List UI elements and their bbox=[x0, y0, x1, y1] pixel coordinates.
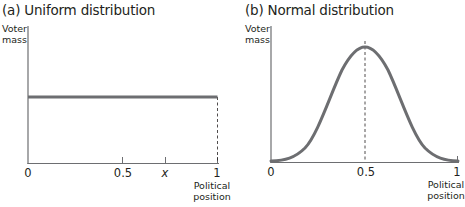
panel-b-xlabel-line2: position bbox=[421, 190, 465, 201]
panel-b-tick-label-1: 1 bbox=[453, 165, 460, 179]
panel-b-ylabel-line2: mass bbox=[240, 34, 270, 45]
panel-b-plot bbox=[270, 26, 459, 163]
panel-a-xlabel-line2: position bbox=[187, 191, 237, 202]
panel-a-tick-label-1: 1 bbox=[213, 166, 220, 180]
panel-b-x-axis-label: Political position bbox=[421, 179, 465, 201]
panel-b-ylabel-line1: Voter bbox=[240, 23, 270, 34]
panel-a-x-axis-label: Political position bbox=[187, 180, 237, 202]
panel-b-tick-label-half: 0.5 bbox=[357, 165, 375, 179]
panel-a-tick-label-0: 0 bbox=[24, 166, 31, 180]
panel-b-tick-label-0: 0 bbox=[267, 165, 274, 179]
panel-a-xlabel-line1: Political bbox=[187, 180, 237, 191]
panel-b-xlabel-line1: Political bbox=[421, 179, 465, 190]
panel-a-tick-label-x: x bbox=[162, 166, 169, 180]
panel-a-tick-label-half: 0.5 bbox=[114, 166, 132, 180]
panel-b-normal-curve bbox=[271, 47, 458, 161]
panel-a-plot bbox=[27, 26, 219, 164]
panel-b-y-axis-label: Voter mass bbox=[240, 23, 270, 45]
chart-canvas bbox=[0, 0, 465, 207]
panel-b-title: (b) Normal distribution bbox=[245, 2, 394, 18]
